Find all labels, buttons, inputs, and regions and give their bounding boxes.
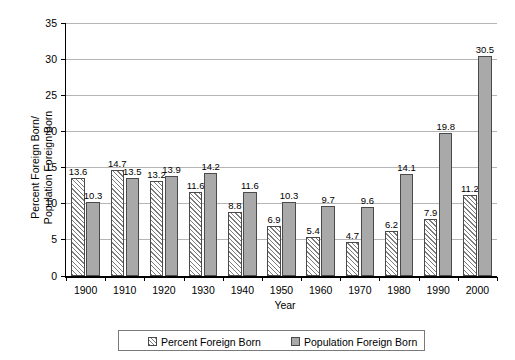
bar[interactable] [478, 56, 492, 276]
x-axis-line [65, 276, 497, 278]
legend-item-population-foreign-born[interactable]: Population Foreign Born [291, 335, 417, 348]
bar[interactable] [126, 178, 140, 276]
bar[interactable] [86, 202, 100, 276]
x-tick-label: 1930 [181, 284, 225, 296]
legend-swatch-hatch-icon [148, 337, 157, 346]
x-tick-mark [458, 277, 459, 281]
gridline [66, 59, 497, 60]
x-axis-title: Year [255, 299, 315, 311]
x-tick-mark [262, 277, 263, 281]
y-tick-label: 25 [31, 90, 57, 100]
legend-label: Percent Foreign Born [161, 336, 261, 348]
x-tick-label: 1970 [338, 284, 382, 296]
x-tick-label: 1960 [299, 284, 343, 296]
bar[interactable] [189, 192, 203, 276]
bar[interactable] [111, 170, 125, 276]
bar[interactable] [346, 242, 360, 276]
y-tick-mark [61, 239, 65, 240]
chart-legend: Percent Foreign Born Population Foreign … [118, 330, 425, 351]
bar-value-label: 13.5 [119, 167, 145, 177]
y-tick-mark [61, 276, 65, 277]
bar-value-label: 10.3 [80, 191, 106, 201]
legend-swatch-solid-icon [291, 337, 300, 346]
bar-value-label: 14.1 [394, 163, 420, 173]
bar[interactable] [204, 173, 218, 276]
x-tick-label: 1910 [103, 284, 147, 296]
x-tick-mark [144, 277, 145, 281]
bar-value-label: 19.8 [433, 122, 459, 132]
bar-value-label: 13.9 [158, 165, 184, 175]
bar[interactable] [243, 192, 257, 276]
bar[interactable] [165, 176, 179, 276]
bar[interactable] [385, 231, 399, 276]
bar-value-label: 9.7 [315, 195, 341, 205]
bar[interactable] [463, 195, 477, 276]
y-tick-label: 35 [31, 18, 57, 28]
x-tick-mark [379, 277, 380, 281]
y-tick-label: 30 [31, 54, 57, 64]
y-tick-mark [61, 23, 65, 24]
x-tick-label: 1980 [377, 284, 421, 296]
bar[interactable] [282, 202, 296, 276]
bar[interactable] [361, 207, 375, 276]
y-tick-label: 15 [31, 162, 57, 172]
x-tick-label: 2000 [455, 284, 499, 296]
y-tick-label: 20 [31, 126, 57, 136]
x-tick-mark [301, 277, 302, 281]
bar-value-label: 14.2 [198, 162, 224, 172]
bar-value-label: 9.6 [354, 196, 380, 206]
bar[interactable] [439, 133, 453, 276]
legend-item-percent-foreign-born[interactable]: Percent Foreign Born [148, 335, 261, 348]
x-tick-mark [419, 277, 420, 281]
y-tick-mark [61, 203, 65, 204]
bar-value-label: 30.5 [472, 45, 498, 55]
bar-chart: Percent Foreign Born/ Population Foreign… [0, 0, 515, 360]
bar-value-label: 13.6 [65, 167, 91, 177]
bar-value-label: 10.3 [276, 191, 302, 201]
bar[interactable] [321, 206, 335, 276]
bar-value-label: 11.6 [237, 181, 263, 191]
bar[interactable] [267, 226, 281, 276]
legend-label: Population Foreign Born [304, 336, 417, 348]
x-tick-label: 1920 [142, 284, 186, 296]
x-tick-mark [497, 277, 498, 281]
x-tick-label: 1950 [260, 284, 304, 296]
bar[interactable] [228, 212, 242, 276]
x-tick-label: 1940 [220, 284, 264, 296]
gridline [66, 23, 497, 24]
x-tick-mark [105, 277, 106, 281]
bar[interactable] [150, 181, 164, 276]
x-tick-mark [223, 277, 224, 281]
y-tick-label: 0 [31, 271, 57, 281]
bar[interactable] [400, 174, 414, 276]
y-tick-mark [61, 59, 65, 60]
x-tick-mark [340, 277, 341, 281]
y-tick-label: 10 [31, 198, 57, 208]
y-tick-label: 5 [31, 234, 57, 244]
x-tick-label: 1900 [64, 284, 108, 296]
bar[interactable] [424, 219, 438, 276]
x-tick-mark [184, 277, 185, 281]
x-tick-mark [66, 277, 67, 281]
bar[interactable] [306, 237, 320, 276]
y-tick-mark [61, 95, 65, 96]
y-tick-mark [61, 131, 65, 132]
gridline [66, 95, 497, 96]
x-tick-label: 1990 [416, 284, 460, 296]
